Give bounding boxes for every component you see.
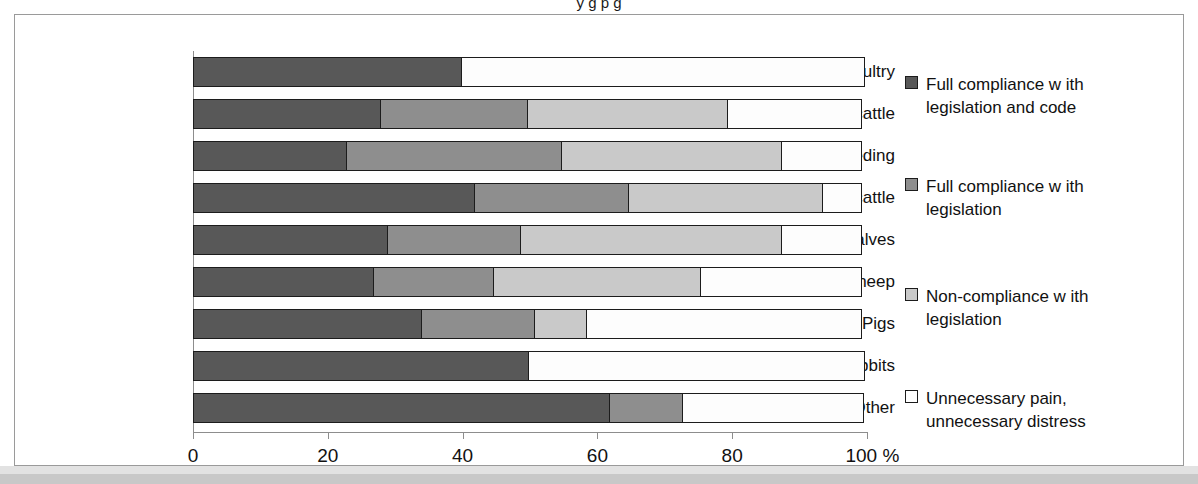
- bar-segment: [421, 309, 536, 339]
- figure-frame: PoultryDairy cattleBeef breedingGrow ing…: [14, 14, 1184, 466]
- x-axis-tick: [732, 433, 733, 439]
- legend-label: Non-compliance w ithlegislation: [926, 285, 1089, 331]
- bar-segment: [586, 309, 862, 339]
- bar-segment: [193, 267, 375, 297]
- bar-segment: [474, 183, 629, 213]
- legend-label: Full compliance w ithlegislation: [926, 175, 1084, 221]
- bar-segment: [380, 99, 528, 129]
- bar-segment: [193, 309, 422, 339]
- x-axis-tick: [463, 433, 464, 439]
- x-axis-tick-label: 0: [188, 445, 199, 467]
- legend-item[interactable]: Full compliance w ithlegislation and cod…: [905, 73, 1175, 119]
- bar-segment: [193, 351, 530, 381]
- legend-item[interactable]: Full compliance w ithlegislation: [905, 175, 1175, 221]
- bar-segment: [193, 183, 476, 213]
- legend-label: Unnecessary pain,unnecessary distress: [926, 387, 1086, 433]
- bar-segment: [781, 225, 862, 255]
- cropped-title-strip: y g p g: [0, 0, 1198, 14]
- legend-swatch-icon: [905, 390, 918, 403]
- x-axis-tick-label: 20: [317, 445, 338, 467]
- bar-row: [193, 351, 867, 381]
- x-axis-tick-label: 80: [722, 445, 743, 467]
- bar-row: [193, 183, 867, 213]
- bar-row: [193, 393, 867, 423]
- legend-label-line2: unnecessary distress: [926, 412, 1086, 431]
- bar-segment: [193, 393, 611, 423]
- legend-swatch-icon: [905, 288, 918, 301]
- bar-segment: [534, 309, 588, 339]
- bar-segment: [682, 393, 864, 423]
- bar-segment: [528, 351, 865, 381]
- legend-label-line2: legislation and code: [926, 98, 1076, 117]
- legend-item[interactable]: Unnecessary pain,unnecessary distress: [905, 387, 1175, 433]
- legend-label-line1: Full compliance w ith: [926, 177, 1084, 196]
- bar-segment: [561, 141, 783, 171]
- x-axis-tick: [328, 433, 329, 439]
- bar-segment: [727, 99, 862, 129]
- bar-segment: [193, 57, 463, 87]
- bar-segment: [527, 99, 729, 129]
- x-axis-tick-label: 100 %: [845, 445, 899, 467]
- legend-label: Full compliance w ithlegislation and cod…: [926, 73, 1084, 119]
- cropped-title-text: y g p g: [576, 0, 621, 11]
- bar-segment: [387, 225, 522, 255]
- bar-row: [193, 225, 867, 255]
- bar-segment: [346, 141, 562, 171]
- legend-swatch-icon: [905, 178, 918, 191]
- legend-label-line1: Full compliance w ith: [926, 75, 1084, 94]
- bar-row: [193, 141, 867, 171]
- legend-label-line1: Non-compliance w ith: [926, 287, 1089, 306]
- bar-segment: [609, 393, 683, 423]
- scan-edge-light: [0, 466, 1198, 474]
- bar-row: [193, 309, 867, 339]
- x-axis-tick-label: 40: [452, 445, 473, 467]
- scan-edge-dark: [0, 474, 1198, 484]
- bar-segment: [822, 183, 862, 213]
- legend-label-line2: legislation: [926, 310, 1002, 329]
- bar-segment: [781, 141, 862, 171]
- x-axis-tick-label: 60: [587, 445, 608, 467]
- x-axis-tick: [193, 433, 194, 439]
- legend-label-line2: legislation: [926, 200, 1002, 219]
- bar-segment: [493, 267, 702, 297]
- bar-segment: [193, 99, 382, 129]
- bar-segment: [520, 225, 783, 255]
- bar-row: [193, 267, 867, 297]
- bar-segment: [461, 57, 865, 87]
- x-axis-line: [193, 432, 868, 433]
- legend-label-line1: Unnecessary pain,: [926, 389, 1067, 408]
- bar-row: [193, 57, 867, 87]
- x-axis-tick: [867, 433, 868, 439]
- legend-swatch-icon: [905, 76, 918, 89]
- bar-segment: [193, 141, 348, 171]
- stacked-bar-chart: PoultryDairy cattleBeef breedingGrow ing…: [15, 15, 895, 467]
- bar-segment: [628, 183, 823, 213]
- legend-item[interactable]: Non-compliance w ithlegislation: [905, 285, 1175, 331]
- bar-row: [193, 99, 867, 129]
- bar-segment: [373, 267, 494, 297]
- bar-segment: [700, 267, 862, 297]
- x-axis-tick: [597, 433, 598, 439]
- bar-segment: [193, 225, 388, 255]
